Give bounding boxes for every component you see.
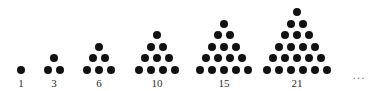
dot [141,54,149,62]
dot [44,66,52,74]
dot [83,66,91,74]
dot [135,66,143,74]
dot [305,54,313,62]
dot [50,54,58,62]
dot [220,20,228,28]
dot [165,54,173,62]
dot [101,54,109,62]
dot [17,66,25,74]
dot-count-label: 21 [277,77,317,89]
dot [263,66,271,74]
dot [220,66,228,74]
dot [299,43,307,51]
dot [153,31,161,39]
dot [269,54,277,62]
dot [287,20,295,28]
dot [208,43,216,51]
dot [323,66,331,74]
dot [159,66,167,74]
dot [244,66,252,74]
dot [147,43,155,51]
dot-count-label: 10 [137,77,177,89]
dot [147,66,155,74]
dot [171,66,179,74]
dot [287,66,295,74]
dot [56,66,64,74]
dot [95,66,103,74]
dot [202,54,210,62]
dot [226,54,234,62]
dot [317,54,325,62]
dot [293,8,301,16]
dot [293,54,301,62]
dot [95,43,103,51]
dot [311,43,319,51]
dot [226,31,234,39]
dot [275,43,283,51]
dot [214,54,222,62]
dot [311,66,319,74]
dot [232,66,240,74]
dot [196,66,204,74]
dot [238,54,246,62]
dot [214,31,222,39]
dot [287,43,295,51]
dot [220,43,228,51]
dot [281,31,289,39]
dot [275,66,283,74]
dot [305,31,313,39]
dot [232,43,240,51]
triangular-numbers-figure: 136101521… [0,0,378,91]
dot [159,43,167,51]
dot [107,66,115,74]
dot [299,66,307,74]
dot [281,54,289,62]
dot [89,54,97,62]
dot-count-label: 15 [204,77,244,89]
continuation-ellipsis: … [352,68,367,81]
dot [208,66,216,74]
dot [153,54,161,62]
dot [299,20,307,28]
dot-count-label: 3 [34,77,74,89]
dot [293,31,301,39]
dot-count-label: 6 [79,77,119,89]
